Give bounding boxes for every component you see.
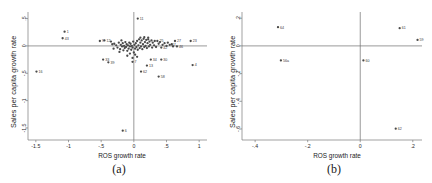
data-point [155,46,157,48]
point-marker [119,48,121,50]
y-axis-label-b: Sales per capita growth rate [228,36,237,128]
y-tick-label: -1 [21,98,27,103]
data-point [122,42,124,44]
data-point [126,55,128,57]
data-point [151,46,153,48]
point-label: 34 [153,58,157,62]
point-marker [110,40,112,42]
data-point [137,49,139,51]
data-point [135,46,137,48]
data-point [143,36,145,38]
point-marker [121,45,123,47]
point-marker [126,55,128,57]
point-marker [176,45,178,47]
point-marker [280,59,282,61]
point-label: 56a [283,59,289,63]
data-point [148,40,150,42]
data-point: 7 [131,60,136,64]
data-point: 61 [399,26,406,30]
point-marker [124,41,126,43]
data-point [119,48,121,50]
point-marker [277,26,279,28]
data-point [131,57,133,59]
data-point [136,40,138,42]
figure-container: .50-.5-1-1.5-1.5-1-.50.51111431612925272… [0,0,432,183]
point-marker [165,45,167,47]
x-tick-label: 0 [359,143,362,149]
point-marker [143,36,145,38]
data-point: 39 [107,61,114,65]
point-label: 6 [125,129,127,133]
point-label: 62 [143,70,147,74]
point-marker [116,46,118,48]
data-point [154,40,156,42]
plot-area-b: .20-.2-.4-.6-.4-.20.264615956a6062 [216,0,432,150]
data-point [129,43,131,45]
data-point: 62 [140,70,147,74]
point-marker [160,46,162,48]
point-label: 23 [193,39,197,43]
point-marker [127,44,129,46]
data-point: 9 [99,39,104,43]
data-point [144,45,146,47]
point-marker [161,44,163,46]
scatter-panel-a: .50-.5-1-1.5-1.5-1-.50.51111431612925272… [0,0,216,183]
data-point [131,46,133,48]
data-point [172,45,174,47]
data-point [146,47,148,49]
data-point [126,50,128,52]
point-marker [118,41,120,43]
point-marker [159,41,161,43]
point-marker [139,37,141,39]
x-tick-label: -1.5 [31,143,40,149]
point-marker [136,56,138,58]
point-marker [150,58,152,60]
point-marker [156,40,158,42]
data-point [142,43,144,45]
panel-caption-b: (b) [216,162,432,177]
data-point [127,47,129,49]
data-point [161,44,163,46]
point-marker [153,44,155,46]
data-point: 46 [176,45,183,49]
point-marker [149,44,151,46]
point-marker [416,39,418,41]
data-point: 4 [191,63,196,67]
plot-area-a: .50-.5-1-1.5-1.5-1-.50.51111431612925272… [0,0,216,150]
point-marker [172,45,174,47]
point-label: 7 [135,60,137,64]
point-marker [141,39,143,41]
point-marker [129,45,131,47]
point-marker [126,50,128,52]
point-label: 4 [195,63,197,67]
point-marker [167,41,169,43]
point-marker [169,44,171,46]
point-marker [61,37,63,39]
point-marker [123,45,125,47]
data-point [121,45,123,47]
data-point: 1 [63,30,68,34]
point-label: 59 [420,38,424,42]
point-marker [131,46,133,48]
point-marker [137,49,139,51]
data-point [124,41,126,43]
point-marker [150,39,152,41]
data-point [136,56,138,58]
x-axis-label-b: ROS growth rate [216,152,432,159]
point-marker [171,43,173,45]
point-label: 11 [140,17,144,21]
x-tick-label: 0 [132,143,135,149]
data-point [130,49,132,51]
data-point [140,45,142,47]
data-point [112,47,114,49]
panel-caption-a: (a) [0,162,216,177]
point-marker [399,27,401,29]
point-marker [141,48,143,50]
point-marker [131,61,133,63]
point-marker [99,40,101,42]
y-tick-label: .2 [235,16,241,20]
data-point [153,44,155,46]
data-point [141,48,143,50]
data-point [120,39,122,41]
point-marker [131,57,133,59]
